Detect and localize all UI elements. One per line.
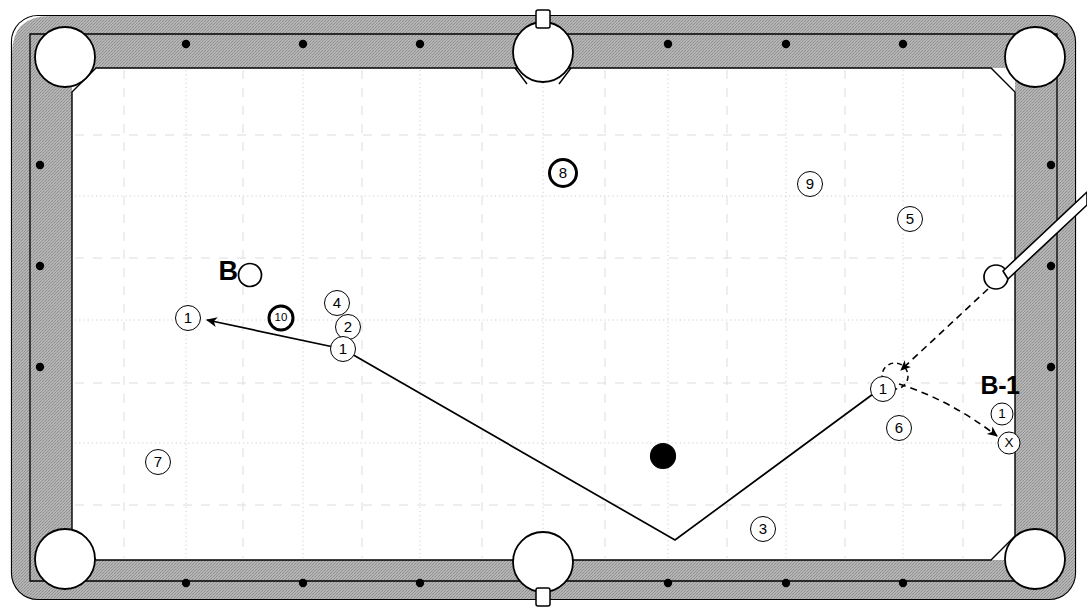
ball-marker-10: 10 (268, 305, 295, 332)
ball-1-contact-label: 1 (339, 341, 347, 356)
ball-marker-1-target: 1 (991, 403, 1014, 426)
ball-1-ghost-label: 1 (879, 381, 887, 396)
ball-2-label: 2 (344, 319, 352, 334)
pocket-tab-bottom (536, 588, 550, 606)
pocket-bottom-left (35, 529, 95, 589)
ball-marker-8: 8 (548, 158, 578, 188)
ball-1-target-label: 1 (998, 407, 1006, 421)
cue-ball-B (239, 264, 262, 287)
ball-marker-6: 6 (886, 415, 912, 441)
pocket-tab-top (536, 10, 550, 28)
ball-4-label: 4 (333, 295, 341, 310)
pool-table-svg (0, 0, 1087, 614)
ball-marker-4: 4 (324, 290, 350, 316)
target-label-b1: B-1 (981, 373, 1020, 398)
pocket-top-left (35, 27, 95, 87)
pool-diagram-stage: B B-1 8 9 5 10 4 2 1 1 7 3 1 6 1 X (0, 0, 1087, 614)
ball-marker-9: 9 (797, 171, 823, 197)
ball-marker-7: 7 (145, 449, 171, 475)
cue-ball-label-b: B (219, 258, 238, 285)
ball-marker-1-contact: 1 (330, 336, 356, 362)
pocket-bottom-right (1005, 529, 1065, 589)
ball-marker-3: 3 (750, 516, 776, 542)
ball-9-label: 9 (806, 176, 814, 191)
ball-x-label: X (1004, 436, 1013, 450)
ball-1-pocket-label: 1 (184, 310, 192, 325)
ball-marker-x: X (998, 432, 1021, 455)
pocket-top-center (513, 22, 573, 82)
pocket-top-right (1005, 27, 1065, 87)
ball-7-label: 7 (154, 454, 162, 469)
ball-3-label: 3 (759, 521, 767, 536)
ball-marker-1-ghost: 1 (870, 376, 896, 402)
pocket-bottom-center (513, 532, 573, 592)
eight-ball-solid (651, 444, 676, 469)
ball-marker-5: 5 (897, 206, 923, 232)
ball-marker-1-pocket: 1 (175, 305, 201, 331)
ball-8-label: 8 (559, 165, 567, 180)
ball-5-label: 5 (906, 211, 914, 226)
ball-10-label: 10 (275, 312, 288, 324)
ball-6-label: 6 (895, 420, 903, 435)
